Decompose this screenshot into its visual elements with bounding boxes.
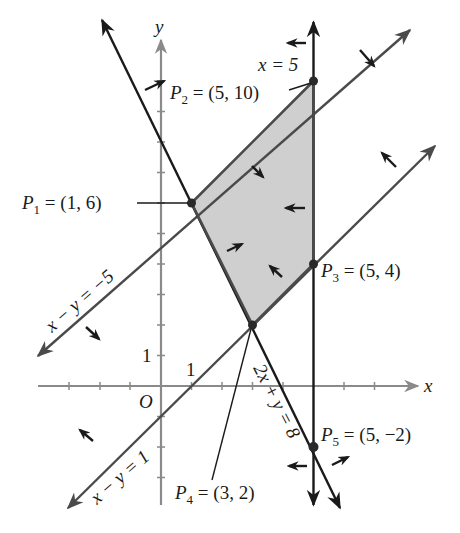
origin-label: O	[139, 391, 153, 412]
p1-coords: = (1, 6)	[40, 192, 101, 214]
p4-coords: = (3, 2)	[193, 482, 254, 504]
label-2x-plus-y-eq-8: 2x + y = 8	[249, 360, 304, 442]
p5-letter: P	[320, 424, 333, 445]
label-x-minus-y-eq-1: x − y = 1	[85, 446, 153, 509]
arrow-icon	[332, 457, 348, 465]
label-x-eq-5: x = 5	[257, 54, 298, 75]
diagram-canvas: x y O 1 1 x = 5 2x + y = 8 x − y = −5 x …	[0, 0, 460, 533]
vertex-p4	[248, 321, 257, 330]
vertex-p1	[187, 199, 196, 208]
arrow-icon	[360, 50, 374, 66]
x-tick-label-1: 1	[186, 359, 196, 380]
p2-coords: = (5, 10)	[188, 82, 259, 104]
p4-letter: P	[174, 482, 187, 503]
p2-letter: P	[169, 82, 182, 103]
vertex-p5	[309, 442, 319, 452]
vertex-p3	[309, 260, 318, 269]
label-p5: P5 = (5, −2)	[320, 424, 411, 449]
y-axis-label: y	[153, 16, 164, 37]
arrow-icon	[382, 153, 396, 167]
p1-letter: P	[21, 192, 34, 213]
arrow-icon	[80, 430, 93, 441]
label-p3: P3 = (5, 4)	[320, 260, 400, 285]
x-axis-label: x	[423, 375, 433, 396]
p3-coords: = (5, 4)	[339, 260, 400, 282]
p3-letter: P	[320, 260, 333, 281]
arrow-icon	[86, 327, 99, 339]
label-p1: P1 = (1, 6)	[21, 192, 101, 217]
feasible-region	[192, 81, 314, 325]
label-p2: P2 = (5, 10)	[169, 82, 259, 107]
p5-coords: = (5, −2)	[339, 424, 411, 446]
vertex-p2	[309, 77, 318, 86]
label-x-minus-y-eq-neg5: x − y = −5	[40, 265, 118, 337]
label-p4: P4 = (3, 2)	[174, 482, 254, 507]
y-tick-label-1: 1	[142, 345, 152, 366]
linear-programming-diagram: x y O 1 1 x = 5 2x + y = 8 x − y = −5 x …	[0, 0, 460, 533]
